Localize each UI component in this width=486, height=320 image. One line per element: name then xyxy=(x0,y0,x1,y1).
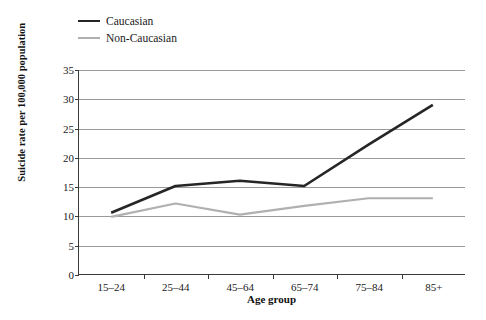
legend-item-caucasian: Caucasian xyxy=(78,14,177,28)
x-tick-mark xyxy=(144,274,145,279)
x-tick-label: 75–84 xyxy=(356,281,384,293)
y-tick-label: 5 xyxy=(69,240,75,252)
y-tick-label: 15 xyxy=(63,181,74,193)
x-tick-label: 45–64 xyxy=(227,281,255,293)
x-tick-mark xyxy=(208,274,209,279)
legend-label-non-caucasian: Non-Caucasian xyxy=(106,32,177,44)
data-series-layer xyxy=(79,70,465,274)
x-axis-title: Age group xyxy=(78,293,465,305)
y-tick-label: 10 xyxy=(63,210,74,222)
series-line-caucasian xyxy=(111,105,433,213)
x-tick-label: 25–44 xyxy=(162,281,190,293)
y-axis-title: Suicide rate per 100,000 population xyxy=(16,22,29,182)
legend-label-caucasian: Caucasian xyxy=(106,15,153,27)
y-tick-mark xyxy=(75,275,79,276)
legend-item-non-caucasian: Non-Caucasian xyxy=(78,31,177,45)
x-tick-mark xyxy=(273,274,274,279)
y-tick-label: 30 xyxy=(63,93,74,105)
x-tick-label: 65–74 xyxy=(291,281,319,293)
y-tick-label: 35 xyxy=(63,64,74,76)
legend-swatch-non-caucasian-icon xyxy=(78,37,100,39)
x-tick-mark xyxy=(402,274,403,279)
series-line-non-caucasian xyxy=(111,198,433,217)
y-tick-label: 0 xyxy=(69,269,75,281)
y-tick-label: 20 xyxy=(63,152,74,164)
legend-swatch-caucasian-icon xyxy=(78,20,100,22)
chart-legend: Caucasian Non-Caucasian xyxy=(78,14,177,45)
x-tick-label: 85+ xyxy=(425,281,442,293)
x-tick-mark xyxy=(337,274,338,279)
x-tick-label: 15–24 xyxy=(98,281,126,293)
plot-area: 05101520253035 15–2425–4445–6465–7475–84… xyxy=(78,70,465,275)
suicide-rate-line-chart: Caucasian Non-Caucasian Suicide rate per… xyxy=(0,0,486,320)
y-tick-label: 25 xyxy=(63,123,74,135)
